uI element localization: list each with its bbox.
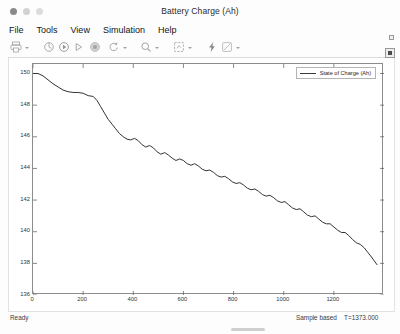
menu-item-tools[interactable]: Tools [36,25,59,35]
chart-legend[interactable]: State of Charge (Ah) [296,67,376,79]
status-bar: Ready Sample based T=1373.000 [0,312,400,326]
title-bar: Battery Charge (Ah) [0,0,400,22]
y-tick-label: 146 [10,132,30,138]
x-tick-label: 200 [69,296,95,302]
legend-label-state-of-charge: State of Charge (Ah) [320,70,371,76]
x-tick-label: 400 [119,296,145,302]
menu-item-file[interactable]: File [8,25,25,35]
x-tick-label: 0 [19,296,45,302]
y-tick-label: 144 [10,164,30,170]
configuration-properties-icon[interactable] [42,40,56,54]
chart-canvas [33,64,384,295]
autoscale-icon[interactable] [172,40,186,54]
status-sample-mode: Sample based [296,314,337,321]
y-tick-label: 150 [10,69,30,75]
menu-item-help[interactable]: Help [157,25,178,35]
y-tick-label: 140 [10,227,30,233]
x-tick-label: 800 [220,296,246,302]
plot-figure: State of Charge (Ah) 1361381401421441461… [8,57,395,312]
trigger-icon[interactable] [205,40,219,54]
maximize-axes-icon[interactable] [385,48,395,58]
menu-item-view[interactable]: View [70,25,91,35]
menu-bar: File Tools View Simulation Help [0,22,400,38]
x-tick-label: 600 [169,296,195,302]
y-tick-label: 138 [10,259,30,265]
window-title: Battery Charge (Ah) [0,6,400,16]
legend-swatch-state-of-charge [300,73,316,74]
plot-axes[interactable]: State of Charge (Ah) [32,63,383,294]
print-caret-icon[interactable] [24,46,29,51]
stop-icon[interactable] [88,40,102,54]
autoscale-caret-icon[interactable] [187,46,192,51]
measurements-icon[interactable] [220,40,234,54]
x-tick-label: 1200 [320,296,346,302]
y-tick-label: 142 [10,196,30,202]
run-icon[interactable] [57,40,71,54]
menu-item-simulation[interactable]: Simulation [102,25,146,35]
scrollbar-thumb[interactable] [231,328,265,331]
status-ready-text: Ready [10,314,28,321]
x-tick-label: 1000 [270,296,296,302]
zoom-caret-icon[interactable] [154,46,159,51]
y-tick-label: 148 [10,101,30,107]
status-time: T=1373.000 [344,314,378,321]
horizontal-scrollbar[interactable] [0,327,400,332]
toolbar [0,38,400,56]
restore-view-icon[interactable] [107,40,121,54]
measurements-caret-icon[interactable] [235,46,240,51]
step-forward-icon[interactable] [72,40,86,54]
restore-view-caret-icon[interactable] [122,46,127,51]
zoom-icon[interactable] [139,40,153,54]
print-icon[interactable] [9,40,23,54]
menu-overflow-icon[interactable] [388,27,395,34]
scope-window: Battery Charge (Ah) File Tools View Simu… [0,0,400,334]
